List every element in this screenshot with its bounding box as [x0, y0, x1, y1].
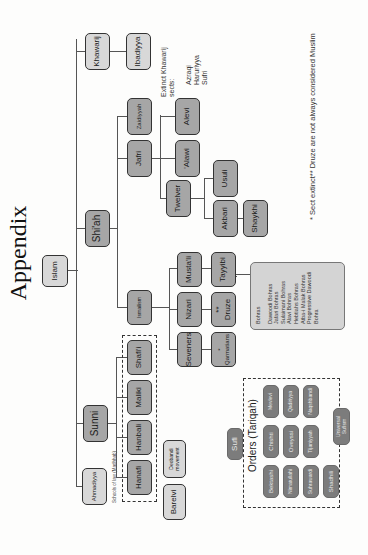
node-label: Barelvi: [170, 490, 178, 514]
connector: [160, 116, 175, 117]
node-seveners: Seveners: [177, 332, 202, 367]
sufi-order: Chishti: [263, 425, 279, 458]
connector: [169, 309, 177, 310]
node-label: Maliki: [135, 387, 143, 407]
footnote: * Sect extinct** Druze are not always co…: [308, 33, 317, 220]
node-label: Hanbali: [135, 424, 143, 451]
node-sunni: Sunni: [83, 405, 108, 442]
bohras-item: Bohra: [313, 268, 320, 324]
node-label: Akbari: [221, 207, 229, 230]
node-qarmatians: * Qarmatians: [211, 332, 236, 367]
connector: [160, 158, 175, 159]
node-alawi: 'Alawi: [175, 140, 200, 177]
node-usuli: Usuli: [213, 160, 238, 197]
page-title: Appendix: [4, 203, 32, 303]
bohras-item: Progressive Dawoodi: [306, 268, 313, 324]
connector: [117, 116, 127, 117]
bohras-item: Sulaimani Bohras: [280, 268, 287, 324]
node-label: Musta'li: [185, 256, 193, 283]
connector: [76, 39, 77, 487]
sufi-order: Mevlevi: [263, 385, 279, 418]
connector: [204, 178, 205, 219]
sufi-order: Oveyssi: [283, 425, 299, 458]
connector: [169, 268, 177, 269]
connector: [110, 51, 126, 52]
node-label: Naqshbandi: [308, 388, 313, 415]
document-page: Appendix Islam Khawarij Ibadi: [0, 0, 368, 555]
node-label: Usuli: [221, 170, 229, 188]
node-label: Suhrawardi: [308, 469, 313, 494]
node-hanafi: Hanafi: [127, 460, 152, 495]
node-islam: Islam: [42, 255, 68, 287]
node-label: * Qarmatians: [217, 334, 230, 365]
node-label: Zaidiyyah: [136, 104, 142, 130]
node-label: Universal Sufism: [336, 416, 347, 437]
sufi-order: Naqshbandi: [303, 385, 319, 418]
connector: [236, 274, 250, 275]
node-hanbali: Hanbali: [127, 420, 152, 455]
connector: [204, 178, 213, 179]
node-akbari: Akbari: [213, 200, 238, 237]
connector: [76, 423, 83, 424]
node-label: Alevi: [183, 108, 191, 125]
node-label: Sufi: [231, 437, 239, 451]
node-alevi: Alevi: [175, 98, 200, 135]
bohras-item: Alavi Bohras: [286, 268, 293, 324]
connector: [117, 158, 127, 159]
node-khawarij: Khawarij: [85, 33, 110, 70]
sufi-order: Shadhili: [323, 465, 339, 498]
node-shaykhi: Shaykhi: [243, 200, 268, 237]
node-label: 'Alawi: [183, 148, 191, 169]
node-label: Sunni: [90, 411, 101, 437]
node-label: Twelver: [174, 185, 182, 213]
node-label: ** Druze: [215, 299, 232, 320]
node-label: Deobandi movement: [169, 447, 180, 470]
node-label: Ibadiyya: [134, 37, 142, 67]
node-label: Mevlevi: [268, 393, 273, 410]
connector: [76, 228, 85, 229]
node-maliki: Maliki: [127, 380, 152, 415]
connector: [160, 115, 161, 199]
bohras-item: Jafari Bohras: [273, 268, 280, 324]
node-label: Ahmadiyya: [91, 472, 97, 502]
node-label: Bektashi: [268, 470, 274, 493]
node-jafri: Jafri: [127, 140, 152, 177]
sufi-order: Bektashi: [263, 465, 279, 498]
node-label: Qadiriyya: [288, 391, 293, 412]
node-shiah: Shi'ah: [85, 210, 110, 247]
node-label: Nizari: [185, 299, 193, 319]
connector: [169, 349, 177, 350]
connector: [191, 198, 205, 199]
node-universal-sufism: Universal Sufism: [333, 408, 350, 445]
node-label: Hanafi: [135, 466, 143, 489]
node-shafii: Shafi'i: [127, 340, 152, 375]
connector: [76, 51, 85, 52]
bohras-item: Hebtiahs Bohras: [293, 268, 300, 324]
connector: [108, 423, 116, 424]
orders-title: Orders (Tariqah): [247, 399, 258, 472]
node-deobandi: Deobandi movement: [163, 440, 186, 478]
bohras-item: Dawoodi Bohras: [267, 268, 274, 324]
node-label: Seveners: [185, 333, 193, 367]
node-nizari: Nizari: [177, 292, 202, 327]
node-label: Shadhili: [328, 471, 334, 492]
sufi-order: Nimatullahi: [283, 465, 299, 498]
connector: [204, 218, 213, 219]
node-barelvi: Barelvi: [163, 484, 186, 520]
node-label: Ismailism: [137, 297, 142, 318]
node-label: Shaykhi: [251, 204, 259, 232]
connector: [202, 349, 211, 350]
node-ahmadiyya: Ahmadiyya: [82, 468, 107, 505]
node-label: Jafri: [135, 151, 143, 166]
node-label: Oveyssi: [288, 431, 294, 452]
connector: [202, 309, 211, 310]
bohras-heading: Bohras: [255, 268, 262, 324]
connector: [202, 268, 211, 269]
node-label: Khawarij: [93, 36, 101, 67]
bohras-box: Bohras Dawoodi Bohras Jafari Bohras Sula…: [250, 262, 345, 330]
node-label: Islam: [51, 261, 59, 280]
node-label: Nimatullahi: [288, 469, 293, 494]
extinct-khawarij-heading: Extinct Khawarij sects:: [160, 17, 176, 97]
node-tayyibi: Tayyibi: [211, 252, 236, 287]
node-label: Tijaniyyah: [308, 430, 313, 452]
